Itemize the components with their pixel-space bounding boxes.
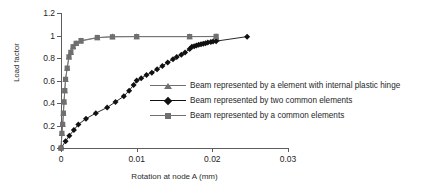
data-point — [65, 66, 70, 71]
y-tick-label: 0.6 — [43, 76, 55, 86]
data-point — [95, 35, 100, 40]
y-tick-label: 1 — [50, 31, 55, 41]
legend-label: Beam represented by two common elements — [186, 96, 352, 105]
data-point — [61, 111, 66, 116]
legend-label: Beam represented by a element with inter… — [186, 81, 400, 90]
data-point — [62, 88, 67, 93]
legend-symbol — [150, 94, 186, 108]
data-point — [154, 66, 160, 72]
x-axis-label: Rotation at node A (mm) — [61, 172, 288, 181]
x-tick — [137, 148, 138, 152]
data-point — [93, 110, 99, 116]
diamond-marker-icon — [164, 96, 172, 104]
y-tick-label: 0.4 — [43, 98, 55, 108]
triangle-marker-icon — [164, 83, 172, 89]
y-tick-label: 0 — [50, 143, 55, 153]
x-tick — [288, 148, 289, 152]
data-point — [187, 34, 192, 39]
data-point — [214, 34, 219, 39]
x-tick-label: 0 — [59, 154, 64, 164]
data-point — [144, 72, 150, 78]
square-marker-icon — [165, 113, 171, 119]
data-point — [104, 105, 110, 111]
data-point — [78, 38, 83, 43]
y-tick-label: 0.2 — [43, 121, 55, 131]
legend-item-2[interactable]: Beam represented by a common elements — [150, 108, 442, 123]
legend-label: Beam represented by a common elements — [186, 111, 344, 120]
data-point — [68, 50, 73, 55]
y-axis-label: Load factor — [12, 23, 21, 103]
data-point — [74, 41, 79, 46]
x-tick-label: 0.03 — [280, 154, 297, 164]
x-axis-line — [61, 148, 288, 149]
data-point — [165, 60, 171, 66]
legend-item-0[interactable]: Beam represented by a element with inter… — [150, 78, 442, 93]
data-point — [244, 34, 250, 40]
legend-symbol — [150, 79, 186, 93]
data-point — [59, 131, 64, 136]
data-point — [60, 122, 65, 127]
data-point — [112, 99, 118, 105]
legend-item-1[interactable]: Beam represented by two common elements — [150, 93, 442, 108]
chart-legend: Beam represented by a element with inter… — [150, 78, 442, 123]
data-point — [66, 54, 71, 59]
data-point — [134, 34, 139, 39]
data-point — [63, 138, 69, 144]
data-point — [58, 145, 63, 150]
y-tick-label: 0.8 — [43, 53, 55, 63]
x-tick-label: 0.01 — [128, 154, 145, 164]
data-point — [149, 70, 155, 76]
chart-figure: Load factor Rotation at node A (mm) 00.2… — [0, 0, 446, 193]
data-point — [61, 99, 66, 104]
x-tick-label: 0.02 — [204, 154, 221, 164]
legend-symbol — [150, 109, 186, 123]
y-tick-label: 1.2 — [43, 8, 55, 18]
x-tick — [212, 148, 213, 152]
data-point — [159, 63, 165, 69]
data-point — [63, 77, 68, 82]
data-point — [110, 34, 115, 39]
